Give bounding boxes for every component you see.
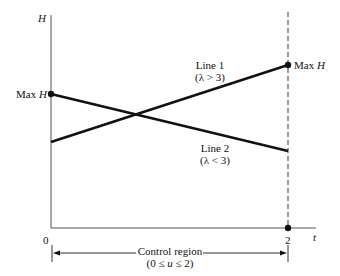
left-max-h-label: Max H xyxy=(16,88,47,100)
right-max-prefix: Max xyxy=(294,59,314,71)
y-axis-label: H xyxy=(38,12,46,24)
line-2-condition: (λ < 3) xyxy=(200,154,230,166)
x-axis-label: t xyxy=(313,231,316,243)
t2-axis-dot xyxy=(285,225,291,231)
control-region-title: Control region xyxy=(138,245,202,257)
x-end-label: 2 xyxy=(285,234,291,246)
right-max-h-label: Max H xyxy=(294,59,325,71)
right-max-dot xyxy=(285,62,291,68)
control-region-range: (0 ≤ u ≤ 2) xyxy=(138,257,202,269)
line-2-name: Line 2 xyxy=(200,142,230,154)
line-1-name: Line 1 xyxy=(195,59,225,71)
line-2-label: Line 2 (λ < 3) xyxy=(200,142,230,166)
x-origin-label: 0 xyxy=(43,234,49,246)
right-max-var: H xyxy=(317,59,325,71)
control-region-label: Control region (0 ≤ u ≤ 2) xyxy=(138,245,202,269)
left-max-dot xyxy=(48,91,54,97)
control-region-right-arrowhead xyxy=(280,251,287,256)
left-max-prefix: Max xyxy=(16,88,36,100)
left-max-var: H xyxy=(39,88,47,100)
line-1-label: Line 1 (λ > 3) xyxy=(195,59,225,83)
control-region-left-arrowhead xyxy=(53,251,60,256)
line-1-condition: (λ > 3) xyxy=(195,71,225,83)
